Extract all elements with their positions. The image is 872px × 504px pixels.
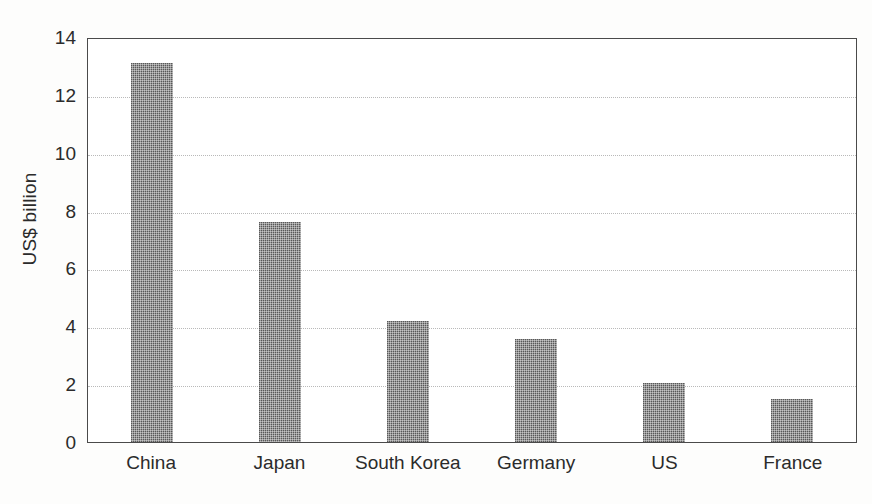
- y-tick-label: 2: [65, 374, 76, 396]
- bar-series: [88, 39, 856, 442]
- y-tick-label: 6: [65, 258, 76, 280]
- y-tick-label: 10: [55, 143, 76, 165]
- chart-figure: US$ billion 02468101214 ChinaJapanSouth …: [0, 0, 872, 504]
- x-tick-label: Germany: [472, 452, 600, 474]
- bar-slot: [472, 39, 600, 442]
- bar-slot: [344, 39, 472, 442]
- bar: [131, 63, 173, 442]
- bar-slot: [88, 39, 216, 442]
- y-axis-tick-labels: 02468101214: [30, 28, 76, 453]
- y-tick-label: 8: [65, 201, 76, 223]
- x-axis-tick-labels: ChinaJapanSouth KoreaGermanyUSFrance: [87, 452, 857, 474]
- x-tick-label: France: [729, 452, 857, 474]
- y-tick-label: 0: [65, 432, 76, 454]
- bar: [515, 339, 557, 442]
- y-tick-label: 14: [55, 27, 76, 49]
- bar-slot: [216, 39, 344, 442]
- bar: [387, 321, 429, 443]
- x-tick-label: China: [87, 452, 215, 474]
- x-tick-label: US: [600, 452, 728, 474]
- y-tick-label: 4: [65, 316, 76, 338]
- bar-slot: [600, 39, 728, 442]
- x-tick-label: Japan: [215, 452, 343, 474]
- x-tick-label: South Korea: [344, 452, 472, 474]
- bar-slot: [728, 39, 856, 442]
- y-tick-label: 12: [55, 85, 76, 107]
- bar: [259, 222, 301, 442]
- plot-area: [87, 38, 857, 443]
- bar: [643, 383, 685, 442]
- bar: [771, 399, 813, 442]
